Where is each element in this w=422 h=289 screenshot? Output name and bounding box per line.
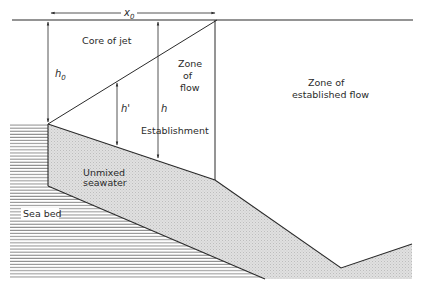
h0-dimension: h0 bbox=[48, 22, 66, 122]
label-zone-of-flow-1: Zone bbox=[178, 58, 202, 69]
h-symbol: h bbox=[161, 103, 167, 114]
h-prime-symbol: h' bbox=[121, 103, 130, 114]
label-unmixed-2: seawater bbox=[83, 177, 127, 188]
label-establishment: Establishment bbox=[141, 125, 209, 136]
label-zone-established-1: Zone of bbox=[308, 77, 345, 88]
label-zone-established-2: established flow bbox=[292, 89, 369, 100]
x0-dimension: x0 bbox=[51, 7, 215, 21]
h-dimension: h bbox=[158, 22, 167, 158]
label-zone-of-flow-2: of bbox=[183, 70, 193, 81]
h0-subscript: 0 bbox=[61, 74, 66, 82]
svg-text:x0: x0 bbox=[123, 7, 135, 21]
label-sea-bed: Sea bed bbox=[23, 208, 62, 219]
svg-text:h0: h0 bbox=[55, 68, 66, 82]
label-core-of-jet: Core of jet bbox=[82, 35, 132, 46]
jet-zones-diagram: x0 h0 h' h Core of jet Zone of flow Esta… bbox=[0, 0, 422, 289]
h-prime-dimension: h' bbox=[117, 83, 130, 145]
x0-subscript: 0 bbox=[130, 13, 135, 21]
label-zone-of-flow-3: flow bbox=[180, 82, 200, 93]
